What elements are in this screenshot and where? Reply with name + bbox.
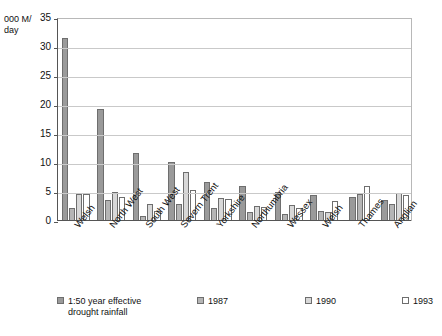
legend-label: 1993 — [413, 296, 433, 307]
legend-swatch-icon — [197, 297, 204, 304]
y-tick-mark — [54, 19, 58, 20]
x-axis-labels: WelshNorth WestSouth WestSevern TrentYor… — [57, 223, 412, 281]
chart-legend: 1:50 year effective drought rainfall1987… — [57, 296, 437, 330]
bar — [349, 197, 355, 221]
legend-label: 1:50 year effective drought rainfall — [68, 296, 141, 318]
y-tick-label: 0 — [25, 215, 51, 226]
y-tick-label: 15 — [25, 128, 51, 139]
legend-item[interactable]: 1:50 year effective drought rainfall — [57, 296, 141, 318]
gridline — [58, 135, 411, 136]
legend-label: 1987 — [208, 296, 228, 307]
bar-group — [94, 19, 130, 221]
y-tick-label: 10 — [25, 157, 51, 168]
legend-item[interactable]: 1990 — [305, 296, 336, 307]
bar-group — [307, 19, 343, 221]
bar-group — [378, 19, 414, 221]
y-tick-mark — [54, 48, 58, 49]
bar-group — [342, 19, 378, 221]
legend-swatch-icon — [57, 297, 64, 304]
gridline — [58, 193, 411, 194]
y-tick-mark — [54, 77, 58, 78]
legend-swatch-icon — [402, 297, 409, 304]
y-tick-mark — [54, 135, 58, 136]
bar — [97, 109, 103, 221]
y-tick-label: 5 — [25, 186, 51, 197]
bar-chart: 000 M/ day 05101520253035 WelshNorth Wes… — [0, 0, 442, 336]
y-tick-mark — [54, 106, 58, 107]
legend-swatch-icon — [305, 297, 312, 304]
y-tick-mark — [54, 193, 58, 194]
plot-area — [57, 18, 412, 221]
y-tick-label: 20 — [25, 99, 51, 110]
gridline — [58, 106, 411, 107]
y-tick-mark — [54, 164, 58, 165]
y-tick-label: 35 — [25, 12, 51, 23]
bar — [310, 195, 316, 221]
bar-group — [236, 19, 272, 221]
y-tick-label: 30 — [25, 41, 51, 52]
bar-group — [58, 19, 94, 221]
gridline — [58, 48, 411, 49]
bars-layer — [58, 19, 411, 221]
gridline — [58, 77, 411, 78]
legend-label: 1990 — [316, 296, 336, 307]
y-tick-label: 25 — [25, 70, 51, 81]
legend-item[interactable]: 1993 — [402, 296, 433, 307]
legend-item[interactable]: 1987 — [197, 296, 228, 307]
gridline — [58, 164, 411, 165]
